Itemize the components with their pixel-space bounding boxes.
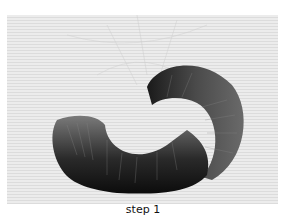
figure-caption: step 1 (0, 203, 286, 216)
embroidery-photo (7, 15, 278, 204)
embroidery-stitch-illustration (7, 15, 278, 204)
